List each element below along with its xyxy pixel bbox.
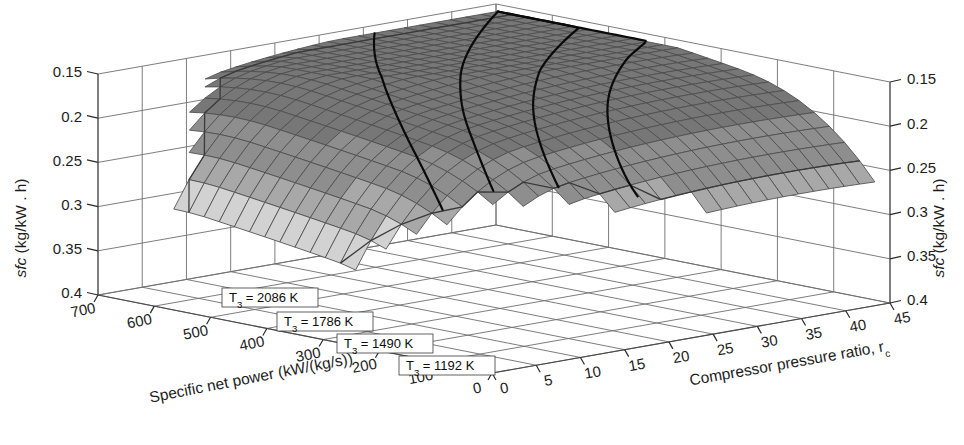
surface-plot-svg: 0.150.20.250.30.350.40.150.20.250.30.350… — [0, 0, 964, 445]
pressure-ratio-tick-label: 0 — [498, 378, 509, 396]
z-axis-right-title: sfc (kg/kW . h) — [930, 178, 947, 277]
power-tick-label: 0 — [471, 378, 482, 396]
contour-label-2086K: T3 = 2086 K — [222, 288, 318, 309]
z-left-tick-label: 0.4 — [61, 284, 82, 301]
x-axis-power-title: Specific net power (kW/(kg/s)) — [148, 350, 354, 406]
pressure-ratio-tick-label: 5 — [543, 371, 554, 389]
z-left-tick-label: 0.35 — [53, 240, 82, 257]
z-left-tick-label: 0.15 — [53, 63, 82, 80]
z-axis-left-title: sfc (kg/kW . h) — [12, 178, 29, 277]
z-left-tick-label: 0.25 — [53, 152, 82, 169]
contour-label-1786K: T3 = 1786 K — [277, 312, 373, 333]
pressure-ratio-tick-label: 10 — [583, 362, 602, 382]
pressure-ratio-tick-label: 20 — [671, 347, 690, 367]
contour-label-1192K: T3 = 1192 K — [399, 356, 495, 377]
power-tick-label: 600 — [125, 310, 153, 331]
power-tick-label: 500 — [182, 321, 210, 342]
pressure-ratio-tick-label: 25 — [715, 339, 734, 359]
pressure-ratio-tick-label: 45 — [892, 308, 911, 328]
z-right-tick-label: 0.4 — [907, 291, 928, 308]
pressure-ratio-tick-label: 15 — [627, 354, 646, 374]
floor-grid — [98, 225, 890, 373]
z-right-tick-label: 0.3 — [907, 203, 928, 220]
z-left-tick-label: 0.3 — [61, 196, 82, 213]
figure-root: 0.150.20.250.30.350.40.150.20.250.30.350… — [0, 0, 964, 445]
surface-mesh — [174, 12, 875, 270]
power-tick-label: 400 — [238, 332, 266, 353]
z-right-tick-label: 0.2 — [907, 115, 928, 132]
z-right-tick-label: 0.25 — [907, 159, 936, 176]
z-right-tick-label: 0.15 — [907, 70, 936, 87]
z-left-tick-label: 0.2 — [61, 108, 82, 125]
pressure-ratio-tick-label: 35 — [804, 323, 823, 343]
pressure-ratio-tick-label: 30 — [760, 331, 779, 351]
power-tick-label: 200 — [350, 355, 378, 376]
pressure-ratio-tick-label: 40 — [848, 316, 867, 336]
contour-label-1490K: T3 = 1490 K — [337, 334, 433, 355]
power-tick-label: 700 — [69, 299, 97, 320]
